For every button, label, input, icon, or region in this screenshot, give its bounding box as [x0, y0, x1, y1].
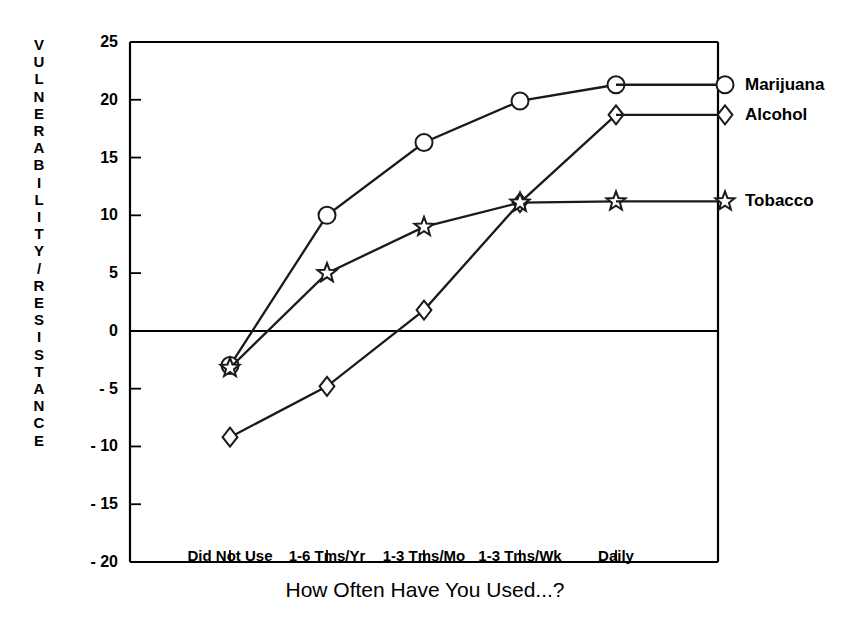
- x-axis-tick-label: 1-6 Tms/Yr: [289, 547, 366, 564]
- x-axis-tick-label: Did Not Use: [187, 547, 272, 564]
- legend-label-marijuana: Marijuana: [745, 75, 824, 95]
- x-axis-tick-label: 1-3 Tms/Wk: [478, 547, 561, 564]
- x-axis-tick-label: Daily: [598, 547, 634, 564]
- x-axis-tick-labels: Did Not Use1-6 Tms/Yr1-3 Tms/Mo1-3 Tms/W…: [0, 0, 857, 626]
- x-axis-tick-label: 1-3 Tms/Mo: [383, 547, 466, 564]
- chart-page: V U L N E R A B I L I T Y / R E S I S T …: [0, 0, 857, 626]
- x-axis-title: How Often Have You Used...?: [230, 578, 620, 602]
- legend-label-alcohol: Alcohol: [745, 105, 807, 125]
- legend-label-tobacco: Tobacco: [745, 191, 814, 211]
